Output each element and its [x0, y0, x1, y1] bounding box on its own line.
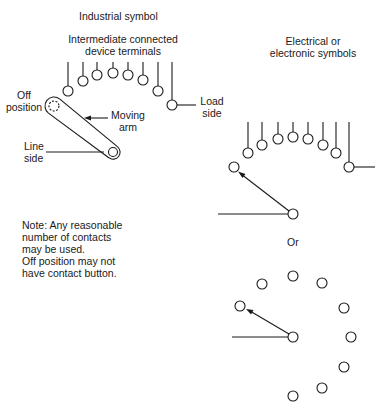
electrical-symbol-rotary [232, 271, 356, 401]
moving-arm-label: Moving arm [108, 109, 148, 133]
note-line1: Note: Any reasonable [22, 219, 122, 231]
load-side-label: Load side [197, 95, 227, 119]
moving-arm-line1: Moving [108, 109, 148, 121]
line-side-line1: Line [24, 140, 44, 152]
electrical-symbol-linear [218, 122, 375, 219]
electrical-title: Electrical or electronic symbols [258, 35, 368, 59]
terminals-label-line2: device terminals [58, 45, 188, 57]
off-position-line2: position [2, 101, 46, 113]
note-line5: have contact button. [22, 267, 122, 279]
note-line2: number of contacts [22, 231, 122, 243]
terminals-label: Intermediate connected device terminals [58, 33, 188, 57]
line-side-label: Line side [24, 140, 44, 164]
note-line3: may be used. [22, 243, 122, 255]
note-line4: Off position may not [22, 255, 122, 267]
industrial-title: Industrial symbol [79, 10, 158, 22]
or-label: Or [287, 236, 299, 248]
note-block: Note: Any reasonable number of contacts … [22, 219, 122, 279]
line-side-line2: side [24, 152, 44, 164]
off-position-label: Off position [2, 89, 46, 113]
off-position-line1: Off [2, 89, 46, 101]
load-side-line2: side [197, 107, 227, 119]
moving-arm-line2: arm [108, 121, 148, 133]
switch-symbols-diagram [0, 0, 382, 413]
terminals-label-line1: Intermediate connected [58, 33, 188, 45]
load-side-line1: Load [197, 95, 227, 107]
electrical-title-line1: Electrical or [258, 35, 368, 47]
electrical-title-line2: electronic symbols [258, 47, 368, 59]
